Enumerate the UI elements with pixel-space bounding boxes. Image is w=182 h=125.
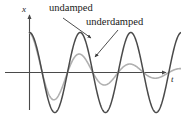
underdamped-annotation-arrow bbox=[95, 30, 118, 57]
underdamped-curve bbox=[30, 33, 182, 100]
x-axis-label: t bbox=[171, 75, 174, 84]
y-axis-label: x bbox=[22, 5, 26, 14]
damped-oscillation-figure: x t undamped underdamped bbox=[0, 0, 181, 125]
undamped-label: undamped bbox=[49, 3, 93, 14]
underdamped-label: underdamped bbox=[86, 17, 143, 28]
